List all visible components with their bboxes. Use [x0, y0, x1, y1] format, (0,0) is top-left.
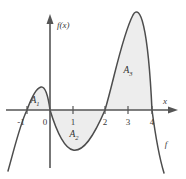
figure-container: -1 0 1 2 3 4 f(x) x f A1 A2 A3: [0, 0, 186, 179]
shaded-region-a2: [50, 110, 105, 150]
tick-label-neg1: -1: [17, 117, 25, 127]
tick-label-0: 0: [43, 117, 48, 127]
region-label-a1-subscript: 1: [36, 100, 39, 107]
x-axis-arrow-icon: [168, 107, 178, 114]
y-axis-arrow-icon: [47, 14, 54, 24]
curve-label-f: f: [165, 139, 169, 149]
tick-label-2: 2: [103, 117, 108, 127]
tick-label-3: 3: [126, 117, 131, 127]
tick-label-4: 4: [150, 117, 155, 127]
function-graph: -1 0 1 2 3 4 f(x) x f A1 A2 A3: [0, 0, 186, 179]
y-axis-label: f(x): [57, 20, 70, 30]
x-axis-label: x: [162, 96, 167, 106]
tick-label-1: 1: [71, 117, 76, 127]
